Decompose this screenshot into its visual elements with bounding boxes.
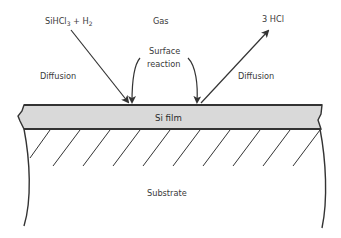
substrate-label: Substrate — [147, 188, 187, 198]
gas-label: Gas — [153, 16, 169, 26]
diffusion-left-label: Diffusion — [40, 71, 76, 81]
product-diffusion-arrow — [201, 31, 268, 103]
surface-reaction-arrow-right — [188, 58, 197, 102]
product-label: 3 HCl — [262, 14, 284, 24]
cvd-diagram: SiHCl3 + H2 Gas Surface reaction 3 HCl D… — [0, 0, 341, 238]
surface-reaction-label-1: Surface — [149, 46, 180, 56]
substrate-hatching — [30, 130, 320, 166]
reactant-label: SiHCl3 + H2 — [45, 16, 93, 27]
surface-reaction-label-2: reaction — [147, 59, 180, 69]
substrate-right-edge — [320, 129, 326, 228]
si-film-label: Si film — [155, 113, 182, 123]
reactant-diffusion-arrow — [71, 30, 128, 102]
substrate-left-edge — [24, 129, 29, 226]
diffusion-right-label: Diffusion — [238, 71, 274, 81]
surface-reaction-arrow-left — [132, 58, 140, 102]
